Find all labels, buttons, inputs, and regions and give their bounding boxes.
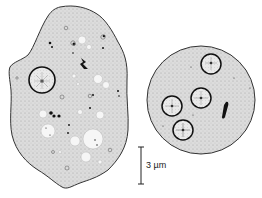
trophozoite-membrane: [9, 6, 128, 188]
cyst-nucleus-2: [191, 88, 211, 108]
scale-bar: [138, 147, 144, 184]
cyst-nucleus-1: [201, 54, 221, 74]
micrograph-illustration: [0, 0, 262, 198]
cyst-nucleus-3: [162, 96, 182, 116]
trophozoite-cell: [9, 6, 128, 188]
trophozoite-nucleus: [29, 67, 55, 93]
scale-bar-label: 3 µm: [146, 160, 166, 170]
cyst-cell: [147, 46, 255, 154]
cyst-nucleus-4: [173, 120, 193, 140]
